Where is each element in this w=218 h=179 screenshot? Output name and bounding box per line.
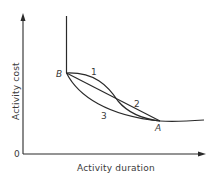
x-axis-arrow-icon bbox=[198, 152, 206, 157]
curve-2-label: 2 bbox=[134, 99, 140, 109]
x-axis bbox=[23, 152, 206, 157]
cost-duration-diagram: 0 Activity cost Activity duration B A 1 … bbox=[0, 0, 218, 179]
point-b-label: B bbox=[56, 69, 62, 79]
origin-label: 0 bbox=[14, 149, 20, 159]
tail-segment-after-a bbox=[160, 120, 204, 121]
y-axis bbox=[21, 13, 26, 154]
x-axis-title: Activity duration bbox=[77, 163, 155, 173]
y-axis-title: Activity cost bbox=[11, 62, 21, 120]
curve-3-label: 3 bbox=[101, 111, 107, 121]
y-axis-arrow-icon bbox=[21, 13, 26, 21]
point-a-label: A bbox=[154, 123, 161, 133]
curve-2-straight bbox=[67, 73, 161, 121]
curve-1-label: 1 bbox=[91, 67, 97, 77]
